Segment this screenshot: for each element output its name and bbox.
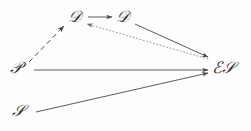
node-d: 𝒟 — [116, 9, 130, 25]
node-s-label: 𝒮 — [11, 103, 25, 119]
node-t-label: 𝒟 — [67, 9, 82, 25]
node-t: 𝒟 — [68, 9, 82, 25]
edge-d-to-es — [135, 24, 208, 57]
diagram-canvas: 𝒟 𝒟 𝒫 𝒮 ℰ𝒮 — [0, 0, 251, 131]
edge-s-to-es — [36, 73, 208, 112]
edge-p-to-t — [29, 26, 64, 62]
node-es-label: ℰ𝒮 — [211, 60, 235, 76]
node-s: 𝒮 — [12, 103, 25, 119]
node-d-label: 𝒟 — [115, 9, 130, 25]
node-p: 𝒫 — [10, 60, 23, 76]
node-es: ℰ𝒮 — [212, 60, 235, 76]
node-p-label: 𝒫 — [9, 60, 23, 76]
